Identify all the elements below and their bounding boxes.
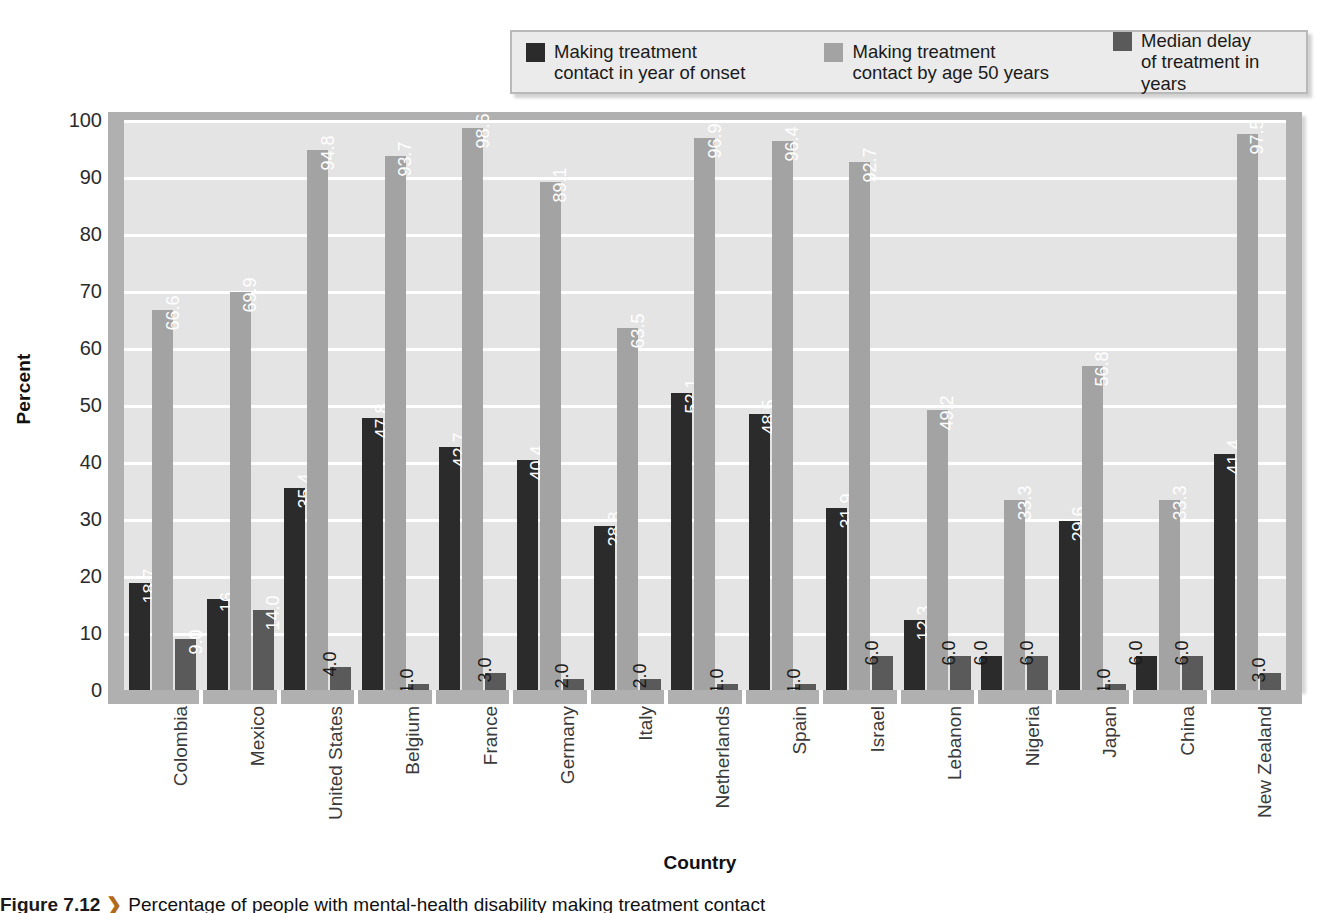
x-category-label: Netherlands (712, 706, 734, 808)
bar-group: 28.863.52.0 (589, 120, 666, 690)
bar: 69.9 (230, 292, 251, 690)
figure-caption: Figure 7.12❯Percentage of people with me… (0, 893, 1331, 913)
bar: 14.0 (253, 610, 274, 690)
legend-swatch-0 (526, 43, 545, 62)
bar-group: 31.992.76.0 (821, 120, 898, 690)
bar-value-label: 98.6 (473, 113, 494, 148)
x-category-label: France (480, 706, 502, 765)
bar: 31.9 (826, 508, 847, 690)
bar-value-label: 4.0 (320, 652, 341, 677)
y-tick-30: 30 (42, 508, 102, 531)
bar: 2.0 (640, 679, 661, 690)
bar-group: 12.349.26.0 (899, 120, 976, 690)
caption-arrow-icon: ❯ (100, 894, 128, 913)
bar: 52.1 (671, 393, 692, 690)
y-tick-90: 90 (42, 166, 102, 189)
bar: 92.7 (849, 162, 870, 690)
y-tick-0: 0 (42, 679, 102, 702)
bar: 4.0 (330, 667, 351, 690)
bar: 96.9 (694, 138, 715, 690)
bar: 16 (207, 599, 228, 690)
x-category-label: Germany (557, 706, 579, 784)
legend-swatch-2 (1113, 32, 1132, 51)
bar-value-label: 92.7 (860, 147, 881, 182)
x-axis-category-labels: ColombiaMexicoUnited StatesBelgiumFrance… (0, 700, 1331, 860)
bar: 94.8 (307, 150, 328, 690)
bar: 12.3 (904, 620, 925, 690)
y-tick-80: 80 (42, 223, 102, 246)
bar-value-label: 33.3 (1015, 486, 1036, 521)
bar-value-label: 6.0 (1172, 640, 1193, 665)
bar-group: 52.196.91.0 (666, 120, 743, 690)
bar: 41.4 (1214, 454, 1235, 690)
bar-group: 42.798.63.0 (434, 120, 511, 690)
bar: 47.8 (362, 418, 383, 690)
bar: 6.0 (1136, 656, 1157, 690)
bar-group: 48.596.41.0 (744, 120, 821, 690)
bar-value-label: 63.5 (628, 314, 649, 349)
bar-group: 40.489.12.0 (511, 120, 588, 690)
y-tick-60: 60 (42, 337, 102, 360)
bar: 97.5 (1237, 134, 1258, 690)
bar-value-label: 96.4 (782, 126, 803, 161)
bar: 66.6 (152, 310, 173, 690)
bar: 6.0 (981, 656, 1002, 690)
legend-label-0: Making treatment contact in year of onse… (554, 41, 745, 84)
bar: 56.8 (1082, 366, 1103, 690)
bar-group: 18.766.69.0 (124, 120, 201, 690)
plot-area: 18.766.69.01669.914.035.494.84.047.893.7… (124, 120, 1286, 690)
bar: 48.5 (749, 414, 770, 690)
bar-group: 1669.914.0 (201, 120, 278, 690)
x-category-label: Italy (635, 706, 657, 741)
bar-series-container: 18.766.69.01669.914.035.494.84.047.893.7… (124, 120, 1286, 690)
bar-value-label: 49.2 (937, 395, 958, 430)
bar-value-label: 2.0 (552, 663, 573, 688)
bar: 6.0 (872, 656, 893, 690)
x-category-label: Belgium (402, 706, 424, 775)
bar: 6.0 (1182, 656, 1203, 690)
bar: 35.4 (284, 488, 305, 690)
legend-item-0: Making treatment contact in year of onse… (512, 41, 810, 84)
bar-value-label: 94.8 (318, 135, 339, 170)
x-axis-title: Country (0, 852, 1331, 874)
caption-text: Percentage of people with mental-health … (128, 894, 765, 913)
bar-value-label: 56.8 (1092, 352, 1113, 387)
bar-value-label: 89.1 (550, 168, 571, 203)
y-tick-10: 10 (42, 622, 102, 645)
bar-value-label: 6.0 (939, 640, 960, 665)
bar-value-label: 3.0 (475, 657, 496, 682)
bar-group: 41.497.53.0 (1209, 120, 1286, 690)
x-category-label: Israel (867, 706, 889, 752)
bar: 96.4 (772, 141, 793, 690)
bar-group: 35.494.84.0 (279, 120, 356, 690)
bar: 6.0 (1027, 656, 1048, 690)
x-category-label: Colombia (170, 706, 192, 786)
legend-label-1: Making treatment contact by age 50 years (852, 41, 1048, 84)
bar-value-label: 6.0 (1126, 640, 1147, 665)
bar-value-label: 6.0 (1017, 640, 1038, 665)
bar: 28.8 (594, 526, 615, 690)
bar-value-label: 97.5 (1247, 120, 1268, 155)
plot-frame: 18.766.69.01669.914.035.494.84.047.893.7… (108, 112, 1302, 690)
bar-value-label: 33.3 (1170, 486, 1191, 521)
bar: 29.6 (1059, 521, 1080, 690)
x-category-label: Nigeria (1022, 706, 1044, 766)
bar-value-label: 96.9 (705, 123, 726, 158)
legend-item-2: Median delay of treatment in years (1099, 30, 1306, 95)
bar-group: 6.033.36.0 (1131, 120, 1208, 690)
bar-group: 29.656.81.0 (1054, 120, 1131, 690)
x-category-label: China (1177, 706, 1199, 756)
y-tick-50: 50 (42, 394, 102, 417)
x-category-label: United States (325, 706, 347, 820)
bar: 89.1 (540, 182, 561, 690)
bar-value-label: 6.0 (971, 640, 992, 665)
bar: 18.7 (129, 583, 150, 690)
x-category-label: Japan (1099, 706, 1121, 758)
y-tick-70: 70 (42, 280, 102, 303)
bar-value-label: 69.9 (240, 277, 261, 312)
bar-value-label: 93.7 (395, 141, 416, 176)
legend-item-1: Making treatment contact by age 50 years (810, 41, 1099, 84)
x-category-label: New Zealand (1254, 706, 1276, 818)
bar: 9.0 (175, 639, 196, 690)
bar-group: 47.893.71.0 (356, 120, 433, 690)
